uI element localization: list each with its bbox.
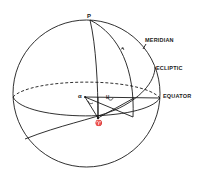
ecliptic-line [25, 67, 155, 139]
pole-label: P [87, 13, 91, 19]
star-marker [121, 47, 124, 50]
equator-label: EQUATOR [163, 94, 191, 100]
alpha-line [85, 97, 160, 98]
hour-angle-label: H [106, 96, 109, 101]
ecliptic-label: ECLIPTIC [156, 66, 183, 72]
vernal-equinox-dot [97, 117, 99, 119]
meridian-label: MERIDIAN [145, 38, 174, 44]
sphere-outline [13, 20, 160, 167]
alpha-label: α [78, 93, 82, 99]
celestial-sphere-diagram [0, 0, 198, 175]
origin-dot [84, 96, 86, 98]
vernal-equinox-label: ♈ [95, 120, 102, 126]
